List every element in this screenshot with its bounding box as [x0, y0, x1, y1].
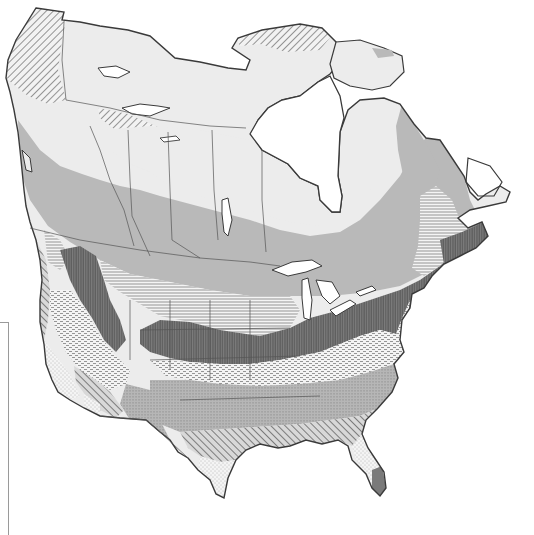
newfoundland	[466, 158, 502, 196]
zone-stipple-texas	[198, 456, 236, 498]
left-frame-line-horizontal	[0, 322, 8, 323]
left-frame-line-vertical	[8, 322, 9, 535]
north-america-map	[0, 0, 534, 535]
land-zones	[0, 0, 510, 498]
baffin-island	[330, 40, 404, 90]
map-canvas	[0, 0, 534, 535]
